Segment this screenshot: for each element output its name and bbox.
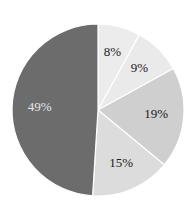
pie-slice — [12, 24, 98, 196]
slice-label: 8% — [104, 44, 122, 59]
slice-label: 15% — [109, 155, 133, 170]
slice-label: 49% — [28, 99, 52, 114]
slice-label: 9% — [131, 60, 149, 75]
pie-chart: 8% 9% 19% 15% 49% — [0, 0, 192, 206]
slice-label: 19% — [144, 106, 168, 121]
